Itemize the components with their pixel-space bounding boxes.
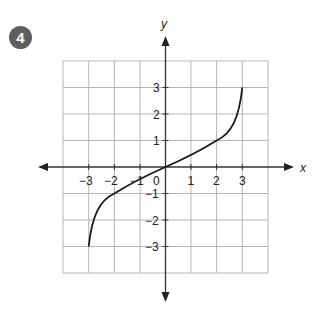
x-axis-right-arrow-icon (284, 163, 294, 171)
axes (44, 42, 288, 296)
y-tick-neg1: −1 (145, 187, 159, 201)
graph: x y −3 −2 −1 0 1 2 3 3 2 1 −1 −2 −3 (0, 0, 317, 316)
y-axis-label: y (160, 17, 168, 31)
y-tick-neg3: −3 (145, 240, 159, 254)
y-tick-3: 3 (153, 81, 160, 95)
x-tick-3: 3 (239, 174, 246, 188)
x-tick-neg2: −2 (104, 174, 118, 188)
y-axis-up-arrow-icon (162, 36, 170, 46)
y-tick-1: 1 (153, 134, 160, 148)
y-tick-neg2: −2 (145, 214, 159, 228)
origin-label: 0 (153, 174, 160, 188)
x-tick-neg3: −3 (79, 174, 93, 188)
y-tick-2: 2 (153, 108, 160, 122)
x-tick-neg1: −1 (130, 174, 144, 188)
x-tick-1: 1 (188, 174, 195, 188)
y-axis-down-arrow-icon (162, 292, 170, 302)
x-axis-label: x (299, 161, 307, 175)
x-tick-2: 2 (213, 174, 220, 188)
x-axis-left-arrow-icon (38, 163, 48, 171)
